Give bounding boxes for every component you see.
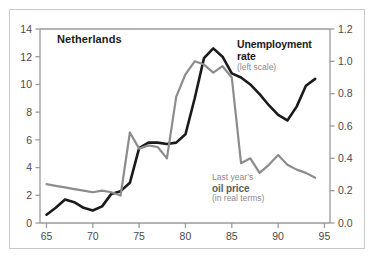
oil-annotation-sub: (in real terms) (212, 194, 264, 204)
chart-figure: 024681012140.00.20.40.60.81.01.265707580… (0, 0, 374, 258)
x-axis-tick-label: 90 (272, 230, 284, 242)
y-axis-left-tick-label: 10 (20, 78, 32, 90)
unemployment-annotation-line1: Unemployment (237, 39, 312, 51)
x-axis-tick-label: 85 (226, 230, 238, 242)
y-axis-left-tick-label: 14 (20, 23, 32, 35)
y-axis-right-tick-label: 1.0 (338, 55, 353, 67)
unemployment-rate-line (46, 48, 315, 214)
y-axis-left-tick-label: 0 (26, 217, 32, 229)
y-axis-right-tick-label: 0.2 (338, 184, 353, 196)
y-axis-right-tick-label: 0.6 (338, 120, 353, 132)
x-axis-tick-label: 80 (180, 230, 192, 242)
y-axis-right-tick-label: 1.2 (338, 23, 353, 35)
unemployment-annotation-line2: rate (237, 51, 312, 63)
y-axis-right-tick-label: 0.8 (338, 87, 353, 99)
oil-annotation-line1: Last year’s (212, 173, 264, 183)
x-axis-tick-label: 70 (87, 230, 99, 242)
country-label: Netherlands (57, 33, 122, 45)
y-axis-left-tick-label: 4 (26, 161, 32, 173)
y-axis-left-tick-label: 2 (26, 189, 32, 201)
x-axis-tick-label: 75 (133, 230, 145, 242)
y-axis-left-tick-label: 8 (26, 106, 32, 118)
x-axis-tick-label: 65 (41, 230, 53, 242)
x-axis-tick-label: 95 (319, 230, 331, 242)
y-axis-right-tick-label: 0.0 (338, 217, 353, 229)
oil-price-series-annotation: Last year’s oil price (in real terms) (212, 173, 264, 203)
unemployment-annotation-scale: (left scale) (237, 63, 312, 73)
y-axis-left-tick-label: 12 (20, 51, 32, 63)
y-axis-right-tick-label: 0.4 (338, 152, 353, 164)
oil-price-line (46, 61, 315, 195)
y-axis-left-tick-label: 6 (26, 134, 32, 146)
unemployment-series-annotation: Unemployment rate (left scale) (237, 39, 312, 72)
